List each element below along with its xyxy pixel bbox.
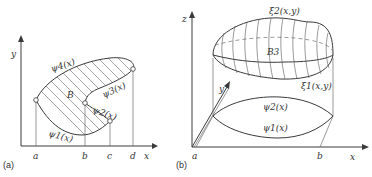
point-d	[131, 67, 136, 72]
projection-b-line	[320, 116, 333, 147]
y-axis-arrow-icon	[18, 35, 24, 42]
panel-b-caption: (b)	[176, 160, 187, 170]
x-axis-3d-label: x	[350, 152, 355, 162]
panel-b: z y x a b ξ2(x,y) ξ1(x,y) B3 ψ2(x) ψ1(x)…	[176, 6, 369, 170]
y-axis-3d-label: y	[218, 84, 225, 94]
label-xi2: ξ2(x,y)	[269, 6, 300, 16]
y-axis-label: y	[10, 49, 17, 59]
projection-a-line	[196, 116, 213, 147]
tick-c: c	[107, 151, 112, 161]
tick-b-3d: b	[317, 151, 323, 161]
x-axis-arrow-icon	[152, 143, 158, 149]
label-base-psi2: ψ2(x)	[263, 102, 288, 112]
label-base-psi1: ψ1(x)	[263, 123, 288, 133]
panel-a: y x a b c d B ψ4(x) ψ3(x) ψ2(x) ψ1(x) (a…	[0, 35, 200, 170]
label-psi4: ψ4(x)	[50, 57, 77, 74]
tick-a-3d: a	[192, 151, 197, 161]
tick-a: a	[33, 151, 38, 161]
region-label-b: B	[66, 90, 74, 100]
point-a	[34, 98, 39, 103]
label-psi2: ψ2(x)	[91, 104, 118, 122]
label-psi3: ψ3(x)	[101, 80, 128, 100]
diagram-canvas: y x a b c d B ψ4(x) ψ3(x) ψ2(x) ψ1(x) (a…	[0, 0, 372, 177]
tick-d: d	[130, 151, 136, 161]
y-axis-3d-shadow	[194, 88, 229, 147]
y-axis-3d	[192, 87, 227, 147]
label-psi1: ψ1(x)	[47, 128, 74, 144]
point-b	[83, 101, 88, 106]
z-axis-arrow-icon	[189, 11, 195, 18]
x-axis-label: x	[144, 151, 149, 161]
z-axis-label: z	[181, 14, 187, 24]
x-axis-3d-arrow-icon	[362, 144, 369, 150]
label-xi1: ξ1(x,y)	[301, 81, 332, 91]
region-label-b3: B3	[266, 47, 280, 57]
panel-a-caption: (a)	[3, 160, 14, 170]
tick-b: b	[82, 151, 88, 161]
